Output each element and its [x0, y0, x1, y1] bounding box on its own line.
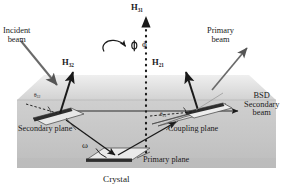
secondary-plane-label: Secondary plane [18, 125, 72, 133]
omega-angle-label: ω [82, 141, 88, 150]
h31-vector-label: H31 [131, 3, 143, 12]
phi-rotation-arrow [103, 40, 126, 51]
h32-vector-label: H32 [62, 58, 74, 67]
phi-angle-label: ϕ [142, 40, 147, 49]
primary-beam-line2: beam [207, 36, 234, 45]
bsd-secondary-beam-label: BSD Secondary beam [244, 92, 279, 118]
primary-plane-label: Primary plane [143, 156, 189, 164]
coupling-plane-label: Coupling plane [168, 125, 218, 133]
theta-21-label: θ21 [160, 112, 166, 118]
incident-beam-arrow [21, 41, 57, 85]
phi-symbol-glyph [132, 40, 137, 51]
theta-32-label: θ32 [34, 93, 40, 99]
crystal-diffraction-diagram: H31 H32 H21 ϕ ω θ32 θ21 Incident beam Pr… [0, 0, 293, 192]
primary-beam-label: Primary beam [207, 27, 234, 44]
crystal-caption: Crystal [103, 175, 130, 184]
incident-beam-label: Incident beam [3, 27, 30, 44]
h21-vector-label: H21 [152, 58, 164, 67]
incident-beam-line2: beam [3, 36, 30, 45]
bsd-line3: beam [244, 109, 279, 118]
